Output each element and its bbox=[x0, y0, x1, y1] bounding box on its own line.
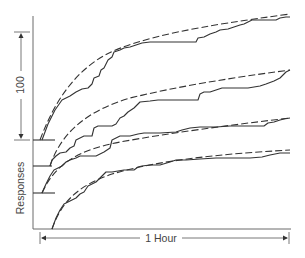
record-3-observed-curve bbox=[42, 118, 290, 193]
scale-bar-100: 100 bbox=[14, 32, 30, 140]
arrow-right-icon bbox=[283, 236, 288, 241]
record-1-observed-curve bbox=[42, 17, 290, 140]
arrow-left-icon bbox=[41, 236, 46, 241]
record-1-fitted-curve bbox=[40, 14, 290, 140]
record-3-fitted-curve bbox=[42, 118, 290, 193]
record-3 bbox=[33, 118, 290, 193]
x-scale-bar-1-hour: 1 Hour bbox=[40, 232, 289, 244]
response-curves-chart: 100 Responses 1 Hour bbox=[0, 0, 305, 258]
record-1 bbox=[33, 14, 290, 140]
arrow-down-icon bbox=[19, 134, 24, 139]
arrow-up-icon bbox=[19, 33, 24, 38]
scale-bar-label: 100 bbox=[14, 76, 26, 94]
record-2 bbox=[33, 70, 290, 166]
record-4-observed-curve bbox=[52, 153, 290, 229]
y-axis-label: Responses bbox=[14, 162, 26, 215]
record-4 bbox=[52, 150, 290, 229]
x-axis-label: 1 Hour bbox=[145, 232, 177, 244]
